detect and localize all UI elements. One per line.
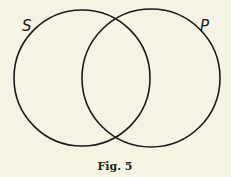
venn-diagram: S P Fig. 5 <box>0 0 231 177</box>
figure-caption: Fig. 5 <box>98 160 133 173</box>
label-p: P <box>200 17 210 35</box>
label-s: S <box>22 17 32 35</box>
venn-figure: S P Fig. 5 <box>0 0 231 177</box>
